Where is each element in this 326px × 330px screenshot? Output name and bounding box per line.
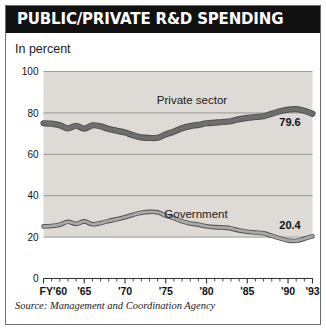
x-axis-tick-label: '80 bbox=[199, 285, 213, 297]
series-end-value-label: 79.6 bbox=[279, 116, 300, 128]
chart-figure: PUBLIC/PRIVATE R&D SPENDING In percent 0… bbox=[0, 0, 326, 330]
x-axis-tick-label: '93 bbox=[305, 285, 319, 297]
series-label: Government bbox=[164, 208, 228, 220]
x-axis-tick-label: '70 bbox=[118, 285, 132, 297]
y-axis-tick-label: 60 bbox=[27, 149, 39, 160]
plot-area: 020406080100FY'60'65'70'75'80'85'90'93Pr… bbox=[0, 0, 326, 330]
series-end-value-label: 20.4 bbox=[279, 219, 301, 231]
y-axis-tick-label: 0 bbox=[33, 273, 39, 284]
x-axis-tick-label: '65 bbox=[77, 285, 91, 297]
x-axis-tick-label: FY'60 bbox=[40, 285, 68, 297]
series-label: Private sector bbox=[157, 94, 227, 106]
y-axis-tick-label: 40 bbox=[27, 190, 39, 201]
x-axis-tick-label: '90 bbox=[281, 285, 295, 297]
x-axis-tick-label: '75 bbox=[159, 285, 173, 297]
source-note: Source: Management and Coordination Agen… bbox=[15, 300, 215, 311]
y-axis-tick-label: 80 bbox=[27, 108, 39, 119]
x-axis-tick-label: '85 bbox=[240, 285, 254, 297]
chart-svg: 020406080100FY'60'65'70'75'80'85'90'93Pr… bbox=[0, 0, 326, 330]
y-axis-tick-label: 100 bbox=[22, 66, 39, 77]
y-axis-tick-label: 20 bbox=[27, 232, 39, 243]
